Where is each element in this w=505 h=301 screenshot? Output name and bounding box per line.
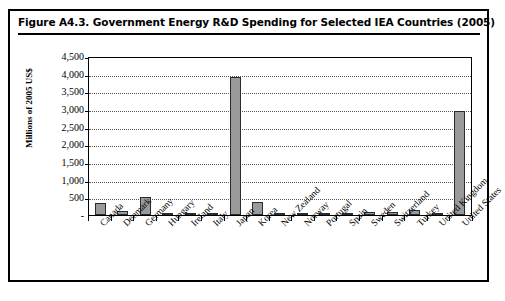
bar-slot (246, 56, 268, 215)
y-axis-tick-label: 1,000 (32, 176, 84, 186)
x-axis-tick-labels: CanadaDenmarkGermanyHungaryIrelandItalyJ… (88, 221, 472, 281)
bar-slot (179, 56, 201, 215)
figure-frame: Figure A4.3. Government Energy R&D Spend… (8, 9, 489, 282)
y-axis-tick-label: 3,500 (32, 87, 84, 97)
y-axis-tick-labels: 4,5004,0003,5003,0002,5002,0001,5001,000… (32, 35, 84, 220)
y-axis-tick-label: 2,500 (32, 123, 84, 133)
bar-slot (269, 56, 291, 215)
bar-slot (201, 56, 223, 215)
bar-slot (134, 56, 156, 215)
bar-slot (381, 56, 403, 215)
figure-title: Figure A4.3. Government Energy R&D Spend… (18, 16, 480, 28)
bar-slot (156, 56, 178, 215)
bar-slot (336, 56, 358, 215)
bar-slot (89, 56, 111, 215)
y-axis-tick-label: 1,500 (32, 158, 84, 168)
chart-area: Millions of 2005 US$ 4,5004,0003,5003,00… (10, 35, 487, 282)
y-axis-tick-label: 4,000 (32, 70, 84, 80)
bar-slot (224, 56, 246, 215)
y-axis-tick-label: 4,500 (32, 52, 84, 62)
plot-area (88, 57, 472, 216)
bar[interactable] (230, 77, 241, 215)
bar-series (89, 56, 471, 215)
y-axis-tick-label: 2,000 (32, 140, 84, 150)
bar-slot (111, 56, 133, 215)
bar-slot (426, 56, 448, 215)
bar-slot (359, 56, 381, 215)
y-axis-tick-label: 500 (32, 193, 84, 203)
y-axis-tick-label: 3,000 (32, 105, 84, 115)
y-axis-tick-label: - (32, 211, 84, 221)
